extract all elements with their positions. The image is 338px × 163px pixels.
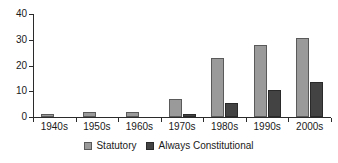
legend-swatch-icon	[84, 142, 92, 150]
x-axis-label-2000s: 2000s	[296, 122, 323, 132]
bar-group-2000s	[296, 14, 323, 117]
legend-entry-statutory[interactable]: Statutory	[84, 141, 136, 151]
y-axis-line	[33, 14, 34, 118]
bar-1970s-always-constitutional	[183, 114, 196, 117]
bar-chart: 010203040 1940s1950s1960s1970s1980s1990s…	[0, 0, 338, 163]
bar-1980s-always-constitutional	[225, 103, 238, 117]
x-axis-label-1990s: 1990s	[254, 122, 281, 132]
x-axis-line	[33, 117, 331, 118]
x-tick-mark	[33, 118, 34, 122]
y-tick-mark	[29, 14, 33, 15]
bar-group-1950s	[83, 14, 110, 117]
y-tick-label: 40	[16, 9, 27, 19]
plot-area: 010203040	[33, 14, 331, 118]
y-tick-label: 30	[16, 35, 27, 45]
bar-1950s-statutory	[83, 112, 96, 117]
chart-legend: StatutoryAlways Constitutional	[0, 141, 338, 151]
bar-2000s-always-constitutional	[310, 82, 323, 117]
x-tick-mark	[118, 118, 119, 122]
x-tick-mark	[203, 118, 204, 122]
bar-group-1970s	[169, 14, 196, 117]
x-tick-mark	[161, 118, 162, 122]
bar-1990s-always-constitutional	[268, 90, 281, 117]
x-tick-mark	[331, 118, 332, 122]
legend-swatch-icon	[146, 142, 154, 150]
y-tick-mark	[29, 40, 33, 41]
y-tick-mark	[29, 91, 33, 92]
x-tick-mark	[76, 118, 77, 122]
legend-entry-always-constitutional[interactable]: Always Constitutional	[146, 141, 253, 151]
bar-2000s-statutory	[296, 38, 309, 117]
x-axis-label-1940s: 1940s	[41, 122, 68, 132]
bar-group-1990s	[254, 14, 281, 117]
bar-group-1940s	[41, 14, 68, 117]
bar-1960s-statutory	[126, 112, 139, 117]
y-tick-label: 10	[16, 86, 27, 96]
y-tick-label: 0	[21, 112, 27, 122]
x-axis-label-1980s: 1980s	[211, 122, 238, 132]
bar-1970s-statutory	[169, 99, 182, 117]
x-tick-mark	[288, 118, 289, 122]
bar-1940s-statutory	[41, 114, 54, 117]
legend-label: Statutory	[96, 141, 136, 151]
y-tick-label: 20	[16, 61, 27, 71]
legend-label: Always Constitutional	[158, 141, 253, 151]
x-axis-label-1950s: 1950s	[83, 122, 110, 132]
bar-group-1960s	[126, 14, 153, 117]
x-axis-label-1960s: 1960s	[126, 122, 153, 132]
bar-1990s-statutory	[254, 45, 267, 117]
y-tick-mark	[29, 66, 33, 67]
bar-1980s-statutory	[211, 58, 224, 117]
x-axis-label-1970s: 1970s	[168, 122, 195, 132]
bar-group-1980s	[211, 14, 238, 117]
x-tick-mark	[246, 118, 247, 122]
